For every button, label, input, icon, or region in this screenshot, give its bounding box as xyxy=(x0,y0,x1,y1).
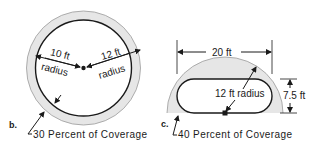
center-dot xyxy=(81,66,85,70)
diagram-c: 20 ft 12 ft radius 7.5 ft c. 40 Percent … xyxy=(161,40,305,140)
diagram-b: 10 ft radius 12 ft radius b. 30 Percent … xyxy=(9,11,147,140)
diagram-c-label: c. xyxy=(161,119,169,129)
height-dimension: 7.5 ft xyxy=(283,90,305,101)
center-dot-c xyxy=(223,111,228,116)
radius-label: 12 ft radius xyxy=(215,88,264,99)
coverage-diagram: 10 ft radius 12 ft radius b. 30 Percent … xyxy=(0,0,317,152)
diagram-b-caption: 30 Percent of Coverage xyxy=(33,129,147,140)
diagram-c-caption: 40 Percent of Coverage xyxy=(178,129,292,140)
diagram-b-label: b. xyxy=(9,120,17,130)
width-dimension: 20 ft xyxy=(212,47,232,58)
